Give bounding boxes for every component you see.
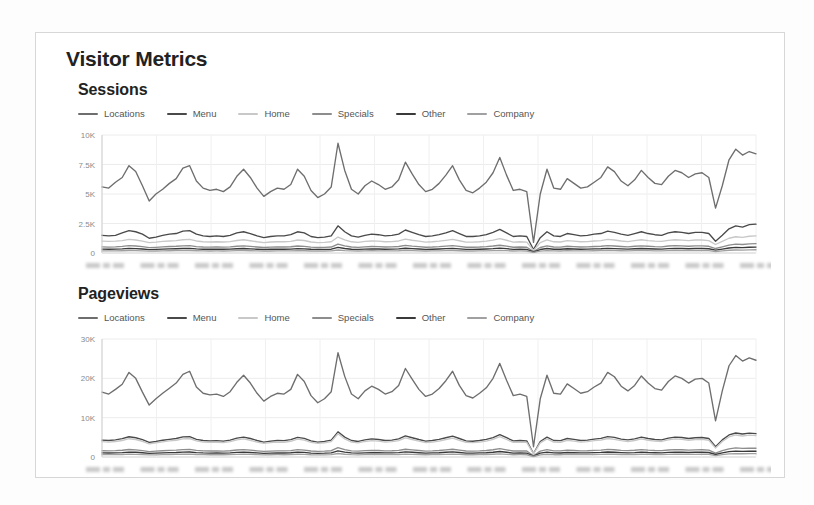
x-tick-glyph — [740, 263, 754, 268]
legend-item-other[interactable]: Other — [396, 108, 446, 119]
x-tick-label — [686, 467, 724, 472]
legend-item-specials[interactable]: Specials — [312, 312, 374, 323]
x-tick-glyph — [267, 467, 274, 472]
screenshot-root: Visitor Metrics Sessions Locations Menu … — [0, 0, 814, 505]
x-tick-label — [577, 467, 615, 472]
x-tick-label — [86, 263, 124, 268]
x-tick-glyph — [86, 263, 100, 268]
legend-swatch-other — [396, 113, 416, 115]
legend-swatch-home — [238, 113, 258, 115]
x-tick-label — [468, 263, 506, 268]
x-tick-glyph — [376, 467, 383, 472]
x-tick-label — [86, 467, 124, 472]
x-tick-glyph — [250, 467, 264, 472]
legend-item-home[interactable]: Home — [238, 312, 289, 323]
x-tick-glyph — [549, 467, 560, 472]
legend-label-company: Company — [493, 312, 534, 323]
x-tick-glyph — [413, 467, 427, 472]
x-tick-glyph — [757, 467, 764, 472]
x-tick-glyph — [267, 263, 274, 268]
x-tick-label — [740, 263, 771, 268]
x-tick-glyph — [386, 467, 397, 472]
legend-label-other: Other — [422, 312, 446, 323]
x-tick-glyph — [141, 263, 155, 268]
pageviews-legend: Locations Menu Home Specials Other — [78, 312, 534, 323]
x-tick-glyph — [713, 263, 724, 268]
legend-item-locations[interactable]: Locations — [78, 108, 145, 119]
x-tick-glyph — [604, 263, 615, 268]
x-tick-glyph — [604, 467, 615, 472]
x-tick-glyph — [495, 263, 506, 268]
legend-label-specials: Specials — [338, 108, 374, 119]
legend-label-other: Other — [422, 108, 446, 119]
x-tick-glyph — [539, 467, 546, 472]
x-tick-glyph — [113, 263, 124, 268]
x-tick-label — [195, 467, 233, 472]
x-tick-label — [359, 467, 397, 472]
x-tick-glyph — [767, 263, 771, 268]
legend-item-locations[interactable]: Locations — [78, 312, 145, 323]
x-tick-glyph — [740, 467, 754, 472]
x-tick-glyph — [468, 467, 482, 472]
x-tick-glyph — [658, 467, 669, 472]
x-tick-glyph — [386, 263, 397, 268]
x-tick-glyph — [686, 263, 700, 268]
x-tick-glyph — [430, 467, 437, 472]
x-tick-glyph — [713, 467, 724, 472]
y-tick-label: 20K — [81, 374, 96, 383]
y-tick-label: 10K — [81, 131, 96, 140]
x-tick-label — [631, 263, 669, 268]
x-tick-glyph — [767, 467, 771, 472]
x-tick-label — [304, 467, 342, 472]
legend-item-other[interactable]: Other — [396, 312, 446, 323]
x-tick-glyph — [440, 263, 451, 268]
x-tick-glyph — [522, 263, 536, 268]
x-tick-glyph — [331, 263, 342, 268]
x-tick-label — [195, 263, 233, 268]
x-tick-glyph — [222, 263, 233, 268]
x-tick-glyph — [304, 467, 318, 472]
x-tick-glyph — [103, 263, 110, 268]
x-tick-glyph — [577, 467, 591, 472]
x-tick-label — [141, 263, 179, 268]
x-tick-glyph — [631, 263, 645, 268]
y-tick-label: 0 — [91, 453, 96, 462]
y-tick-label: 5K — [85, 190, 95, 199]
legend-label-locations: Locations — [104, 312, 145, 323]
legend-swatch-specials — [312, 113, 332, 115]
legend-label-home: Home — [264, 312, 289, 323]
x-tick-glyph — [658, 263, 669, 268]
legend-item-menu[interactable]: Menu — [167, 108, 217, 119]
x-tick-glyph — [430, 263, 437, 268]
x-tick-glyph — [468, 263, 482, 268]
x-tick-glyph — [158, 263, 165, 268]
x-tick-glyph — [485, 263, 492, 268]
x-tick-glyph — [359, 263, 373, 268]
legend-item-menu[interactable]: Menu — [167, 312, 217, 323]
x-tick-glyph — [376, 263, 383, 268]
legend-item-home[interactable]: Home — [238, 108, 289, 119]
x-tick-glyph — [212, 263, 219, 268]
y-tick-label: 2.5K — [79, 220, 96, 229]
legend-item-company[interactable]: Company — [467, 312, 534, 323]
sessions-chart-svg: 02.5K5K7.5K10K — [56, 129, 771, 284]
x-tick-label — [740, 467, 771, 472]
pageviews-plot: 010K20K30K — [56, 333, 771, 488]
y-tick-label: 30K — [81, 335, 96, 344]
x-tick-glyph — [277, 467, 288, 472]
legend-item-specials[interactable]: Specials — [312, 108, 374, 119]
x-tick-glyph — [103, 467, 110, 472]
legend-item-company[interactable]: Company — [467, 108, 534, 119]
x-tick-glyph — [522, 467, 536, 472]
x-tick-glyph — [331, 467, 342, 472]
sessions-xaxis — [86, 263, 771, 268]
legend-label-company: Company — [493, 108, 534, 119]
x-tick-label — [250, 467, 288, 472]
legend-label-home: Home — [264, 108, 289, 119]
x-tick-glyph — [648, 263, 655, 268]
legend-swatch-locations — [78, 113, 98, 115]
legend-swatch-menu — [167, 113, 187, 115]
sessions-legend: Locations Menu Home Specials Other — [78, 108, 534, 119]
x-tick-glyph — [86, 467, 100, 472]
pageviews-yaxis: 010K20K30K — [81, 335, 102, 462]
